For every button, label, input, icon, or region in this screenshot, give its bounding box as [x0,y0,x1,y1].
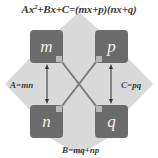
label-c-equals-pq: C=pq [121,80,141,90]
corner-marker [56,106,62,112]
equation-part: +Bx+C=(mx+p)(nx+q) [37,3,136,15]
equation-part: Ax [22,3,34,15]
box-n: n [30,105,63,138]
box-q: q [95,105,128,138]
box-letter: n [42,112,51,132]
corner-marker [56,56,62,62]
equation-title: Ax2+Bx+C=(mx+p)(nx+q) [0,3,158,15]
corner-marker [96,56,102,62]
label-a-equals-mn: A=mn [10,80,33,90]
box-p: p [95,30,128,63]
cross-method-diagram: Ax2+Bx+C=(mx+p)(nx+q) m p n q A=mn C=pq … [0,0,158,158]
corner-marker [96,106,102,112]
box-letter: q [107,112,116,132]
background-cross-shape [0,0,158,158]
label-b-equals-mq-np: B=mq+np [62,145,99,155]
box-letter: p [107,37,116,57]
box-m: m [30,30,63,63]
box-letter: m [40,37,52,57]
